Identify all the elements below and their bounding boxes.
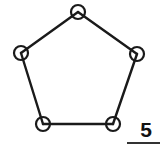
edge-top-right [78,12,137,54]
scale-value-label: 5 [140,119,152,140]
scale-bar-rule [127,142,160,144]
edge-right-bottom-right [113,54,137,124]
edge-bottom-left-left [21,53,43,124]
edge-group [21,12,137,124]
node-group [14,5,144,131]
figure-root: 5 [0,0,160,149]
pentagon-graph-canvas [0,0,160,149]
edge-left-top [21,12,78,53]
